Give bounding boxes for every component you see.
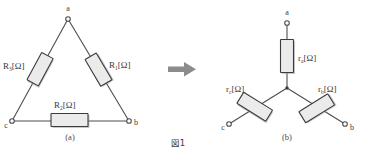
resistor-unit-R3: [Ω]	[12, 61, 25, 71]
resistor-unit-R2: [Ω]	[63, 100, 76, 110]
resistor-R3	[26, 52, 54, 87]
resistor-label-R3: R3[Ω]	[3, 61, 24, 72]
wye-terminal-a	[285, 21, 290, 26]
delta-node-label-a: a	[66, 4, 70, 13]
figure-canvas: a c b R3[Ω] R1[Ω] R2[Ω] (a)	[0, 0, 381, 155]
right-arrow-icon	[168, 62, 196, 77]
delta-terminal-b	[127, 119, 132, 124]
wye-sublabel: (b)	[282, 132, 292, 142]
wye-node-label-c: c	[221, 123, 225, 132]
resistor-label-rc: rc[Ω]	[226, 84, 244, 95]
resistor-label-R2: R2[Ω]	[54, 100, 75, 111]
delta-node-label-b: b	[134, 118, 138, 127]
wye-node-label-a: a	[285, 8, 289, 17]
wye-circuit: a c b ra[Ω] rc[Ω] rb[Ω] (b)	[221, 8, 354, 142]
resistor-rb	[299, 93, 337, 124]
resistor-label-R1: R1[Ω]	[109, 60, 130, 71]
delta-sublabel: (a)	[65, 132, 75, 142]
resistor-unit-R1: [Ω]	[118, 60, 131, 70]
resistor-label-rb: rb[Ω]	[318, 84, 336, 95]
resistor-unit-rc: [Ω]	[231, 84, 244, 94]
resistor-rc	[236, 92, 274, 123]
delta-circuit: a c b R3[Ω] R1[Ω] R2[Ω] (a)	[3, 4, 138, 142]
wye-center-junction	[285, 86, 288, 89]
resistor-R2	[51, 114, 90, 129]
wye-node-label-b: b	[350, 123, 354, 132]
delta-terminal-a	[66, 17, 71, 22]
resistor-unit-ra: [Ω]	[303, 53, 316, 63]
resistor-unit-rb: [Ω]	[324, 84, 337, 94]
delta-node-label-c: c	[4, 121, 8, 130]
wye-terminal-b	[343, 122, 348, 127]
delta-terminal-c	[10, 119, 15, 124]
wye-terminal-c	[227, 122, 232, 127]
resistor-ra	[281, 40, 296, 75]
resistor-label-ra: ra[Ω]	[298, 53, 316, 64]
figure-caption: 図1	[171, 138, 185, 148]
